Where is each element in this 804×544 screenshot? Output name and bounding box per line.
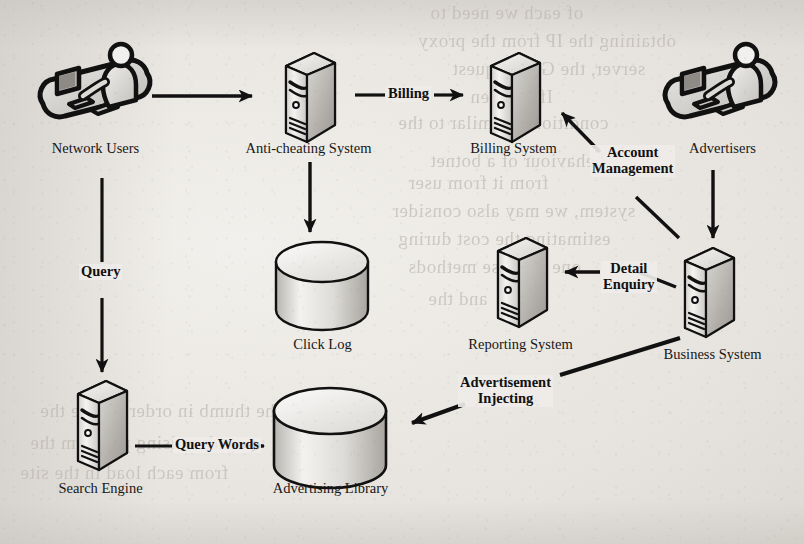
diagram-canvas: Network Users Anti-cheating System Billi… [0,0,804,544]
edge-label-detail-enquiry: Detail Enquiry [601,261,657,293]
node-label-advertisers: Advertisers [689,140,756,156]
database-cylinder-icon-click-log [276,242,368,330]
database-cylinder-icon-advertising-library [274,388,386,488]
edge-label-query-words: Query Words [173,437,261,453]
server-tower-icon-search-engine [78,381,127,470]
server-tower-icon-anti-cheating [286,53,335,142]
node-label-click-log: Click Log [293,336,351,352]
node-label-network-users: Network Users [52,140,139,156]
edge-label-query: Query [79,264,122,280]
server-tower-icon-business-system [685,248,734,337]
edge-label-account-management-line1: Account [592,145,673,161]
node-label-billing-system: Billing System [470,140,557,156]
edge-label-detail-enquiry-line2: Enquiry [603,277,655,293]
server-tower-icon-reporting-system [498,238,547,327]
node-label-anti-cheating-system: Anti-cheating System [245,140,371,156]
edge-label-account-management: Account Management [590,145,675,177]
node-label-reporting-system: Reporting System [468,336,572,352]
node-label-search-engine: Search Engine [58,480,142,496]
user-at-computer-icon-network-users [40,44,150,117]
edge-label-advertisement-injecting: Advertisement Injecting [458,375,553,407]
edge-label-detail-enquiry-line1: Detail [603,261,655,277]
edge-label-account-management-line2: Management [592,161,673,177]
edge-label-billing: Billing [386,86,431,102]
edge-label-advertisement-injecting-line2: Injecting [460,391,551,407]
server-tower-icon-billing-system [491,53,540,142]
user-at-computer-icon-advertisers [665,44,775,117]
edge-label-advertisement-injecting-line1: Advertisement [460,375,551,391]
node-label-advertising-library: Advertising Library [273,480,389,496]
node-label-business-system: Business System [664,346,762,362]
